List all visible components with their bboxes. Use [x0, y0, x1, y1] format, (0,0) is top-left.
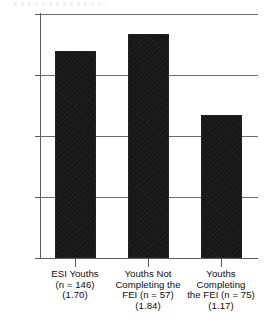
- x-axis-baseline: [40, 258, 258, 259]
- x-axis-label-youths-completing-fei: Youths Completing the FEI (n = 75) (1.17…: [173, 269, 269, 311]
- scan-artifact-strip: [14, 2, 106, 6]
- x-tick-mark-2: [148, 259, 149, 267]
- bar-esi-youths: [55, 51, 96, 258]
- bar-chart-figure: 2 1.5 1 0.5 0 ESI Youths (n = 146) (1.70…: [0, 0, 270, 327]
- plot-area: [40, 14, 258, 258]
- bar-youths-completing-fei: [201, 115, 242, 258]
- x-tick-mark-3: [221, 259, 222, 267]
- x-tick-mark-1: [75, 259, 76, 267]
- bar-youths-not-completing-fei: [128, 34, 169, 258]
- gridline-2: [40, 14, 258, 15]
